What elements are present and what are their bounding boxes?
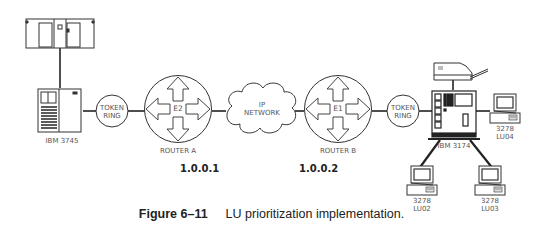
ibm-3745-label: IBM 3745 xyxy=(44,137,80,145)
terminal-lu03-model: 3278 xyxy=(475,197,505,205)
terminal-lu02-model: 3278 xyxy=(407,197,437,205)
ibm-3745-icon xyxy=(38,89,81,132)
figure-caption-text: LU prioritization implementation. xyxy=(226,207,405,221)
ip-network-line2: NETWORK xyxy=(240,109,284,117)
router-b-interface: E1 xyxy=(330,105,346,113)
terminal-lu04-icon xyxy=(490,94,520,123)
router-a-interface: E2 xyxy=(170,105,186,113)
figure-caption: Figure 6–11LU prioritization implementat… xyxy=(0,207,543,221)
token-ring-right-label: TOKEN RING xyxy=(387,104,419,120)
token-ring-left-label: TOKEN RING xyxy=(96,104,128,120)
ibm-3174-label: IBM 3174 xyxy=(434,142,474,150)
router-a-label: ROUTER A xyxy=(158,147,198,155)
router-b-ip: 1.0.0.2 xyxy=(299,163,338,174)
terminal-lu04-lu: LU04 xyxy=(490,133,520,141)
router-a-ip: 1.0.0.1 xyxy=(180,163,219,174)
terminal-lu02-icon xyxy=(407,166,437,195)
token-ring-left-line2: RING xyxy=(96,112,128,120)
ip-network-line1: IP xyxy=(240,101,284,109)
token-ring-right-line2: RING xyxy=(387,112,419,120)
token-ring-left-line1: TOKEN xyxy=(96,104,128,112)
mainframe-icon xyxy=(26,19,94,48)
terminal-lu04-model: 3278 xyxy=(490,125,520,133)
router-b-label: ROUTER B xyxy=(318,147,358,155)
terminal-lu04-label: 3278 LU04 xyxy=(490,125,520,141)
terminal-lu03-icon xyxy=(475,166,505,195)
ip-network-label: IP NETWORK xyxy=(240,101,284,117)
ibm-3174-icon xyxy=(428,91,480,139)
printer-icon xyxy=(434,63,488,80)
token-ring-right-line1: TOKEN xyxy=(387,104,419,112)
figure-number: Figure 6–11 xyxy=(139,207,208,221)
